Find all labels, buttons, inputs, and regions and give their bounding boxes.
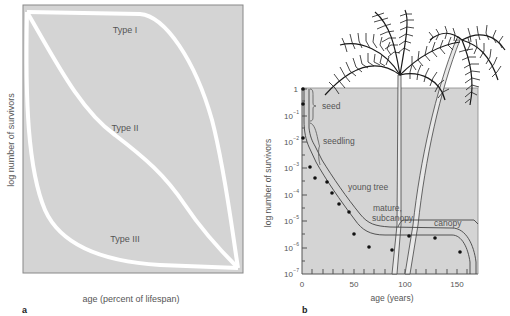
seed-label: seed [322,101,341,111]
svg-text:10: 10 [284,112,293,121]
ytick-exponent: −3 [293,161,299,167]
ytick-exponent: −4 [293,188,299,194]
seedling-label: seedling [323,136,355,146]
ytick-label: 1 [294,85,299,94]
panel-b-y-axis-label: log number of survivors [263,139,273,227]
ytick-label: 10 [284,138,293,147]
ytick-label: 10 [284,164,293,173]
svg-text:10: 10 [284,164,293,173]
ytick-exponent: −7 [293,267,299,273]
ytick-exponent: −5 [293,214,299,220]
canopy-label: canopy [434,218,462,228]
ytick-label: 10 [284,244,293,253]
xtick-label: 50 [350,280,359,289]
ytick-label: 10 [284,191,293,200]
svg-text:10: 10 [284,138,293,147]
mature-label: mature, [373,203,402,213]
x-tick-labels: 0 50 100 150 [300,280,464,289]
type-1-label: Type I [113,25,138,35]
young-tree-label: young tree [348,182,388,192]
panel-a: Type I Type II Type III log number of su… [6,5,243,315]
panel-b: 1 10 −1 10 −2 10 −3 10 −4 10 −5 10 −6 10… [263,10,505,315]
ytick-exponent: −6 [293,241,299,247]
svg-text:10: 10 [284,191,293,200]
svg-text:10: 10 [284,270,293,279]
panel-a-letter: a [22,305,28,315]
xtick-label: 100 [398,280,412,289]
xtick-label: 150 [450,280,464,289]
y-tick-labels: 1 10 −1 10 −2 10 −3 10 −4 10 −5 10 −6 10… [284,85,299,279]
ytick-label: 10 [284,217,293,226]
figure-canvas: Type I Type II Type III log number of su… [0,0,510,316]
ytick-exponent: −2 [293,135,299,141]
ytick-exponent: −1 [293,109,299,115]
type-2-label: Type II [111,123,138,133]
panel-a-y-axis-label: log number of survivors [6,93,16,187]
svg-text:10: 10 [284,217,293,226]
subcanopy-label: subcanopy [372,213,414,223]
ytick-label: 10 [284,112,293,121]
ytick-label: 10 [284,270,293,279]
panel-a-plot-area [23,5,243,273]
panel-b-letter: b [302,305,308,315]
svg-text:10: 10 [284,244,293,253]
panel-b-x-axis-label: age (years) [371,293,414,303]
type-3-label: Type III [110,234,140,244]
panel-a-x-axis-label: age (percent of lifespan) [82,294,179,304]
xtick-label: 0 [300,280,305,289]
